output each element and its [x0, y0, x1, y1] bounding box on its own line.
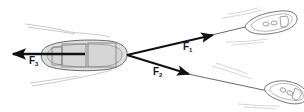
label-f3: F3: [29, 56, 38, 67]
label-f1: F1: [183, 42, 192, 53]
label-f2: F2: [153, 67, 162, 78]
tug-upper: [222, 8, 297, 45]
large-boat: [41, 40, 127, 71]
diagram-canvas: [0, 0, 304, 112]
force-diagram: F1 F2 F3: [0, 0, 304, 112]
tow-rope-upper: [212, 27, 245, 35]
label-f2-subscript: 2: [159, 72, 162, 78]
label-f3-subscript: 3: [35, 61, 38, 67]
force-arrow-f1: [127, 35, 213, 55]
tug-lower: [212, 63, 304, 109]
tow-rope-lower: [188, 74, 268, 91]
label-f1-subscript: 1: [189, 47, 192, 53]
